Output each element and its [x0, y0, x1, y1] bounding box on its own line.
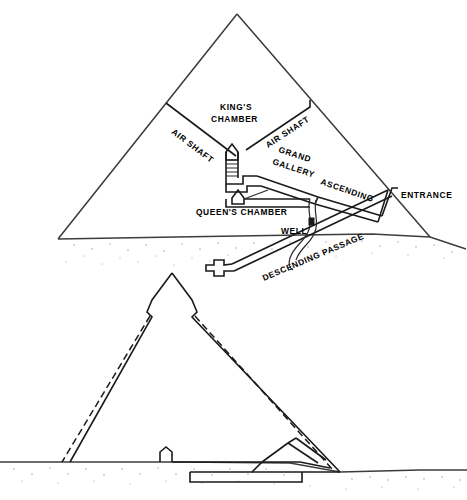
queens-chamber-label: QUEEN'S CHAMBER: [196, 207, 288, 217]
pyramid-cross-section-figure: AIR SHAFT AIR SHAFT KING'S CHAMBER GRAND…: [0, 0, 467, 500]
entrance-label: ENTRANCE: [401, 190, 452, 200]
kings-chamber-label-line2: CHAMBER: [211, 114, 258, 124]
figure-background: [0, 0, 467, 500]
kings-chamber-label-line1: KING'S: [220, 102, 252, 112]
well-shaft-marker: [309, 218, 314, 225]
well-label: WELL: [281, 226, 307, 236]
